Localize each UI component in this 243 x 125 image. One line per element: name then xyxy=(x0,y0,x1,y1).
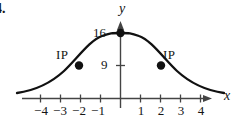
x-tick-label--3: −3 xyxy=(50,104,70,117)
inflection-point-label-left: IP xyxy=(56,48,68,61)
x-axis-arrowhead xyxy=(203,95,212,102)
y-value-label-16: 16 xyxy=(93,26,106,39)
y-axis-label: y xyxy=(119,2,125,16)
y-axis-arrowhead xyxy=(117,21,124,30)
inflection-point-marker-left xyxy=(75,61,83,69)
y-value-label-9: 9 xyxy=(101,58,108,71)
x-tick-label-3: 3 xyxy=(171,104,191,117)
inflection-point-marker-right xyxy=(157,61,165,69)
x-tick-label--2: −2 xyxy=(69,104,89,117)
x-tick-label-2: 2 xyxy=(151,104,171,117)
x-tick-label-1: 1 xyxy=(131,104,151,117)
x-tick-label-4: 4 xyxy=(191,104,211,117)
calculus-curve-figure: 4. xyxy=(0,0,243,125)
x-axis xyxy=(22,95,212,102)
x-tick-label--1: −1 xyxy=(88,104,108,117)
x-tick-label--4: −4 xyxy=(31,104,51,117)
maximum-point-marker xyxy=(116,29,124,37)
x-axis-label: x xyxy=(224,89,230,103)
inflection-point-label-right: IP xyxy=(163,48,175,61)
